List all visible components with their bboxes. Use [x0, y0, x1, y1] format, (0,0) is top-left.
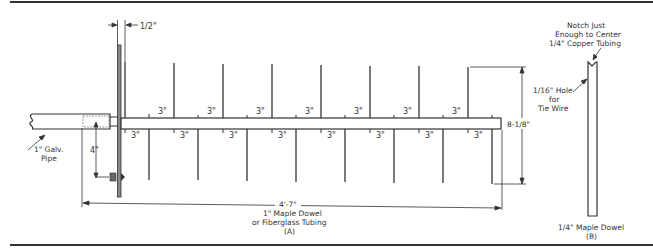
spacing-label: 3" [327, 131, 336, 140]
spacing-label: 3" [131, 131, 140, 140]
hole-leader [573, 79, 587, 92]
half-inch-dimension [108, 20, 138, 62]
spacing-label: 3" [180, 131, 189, 140]
galv-pipe-label: 1" Galv. [34, 145, 63, 154]
spacing-label: 3" [474, 131, 483, 140]
boom-label: (A) [284, 227, 295, 236]
spacing-label: 3" [229, 131, 238, 140]
spacing-label: 3" [403, 107, 412, 116]
spacing-label: 3" [376, 131, 385, 140]
spacing-label: 3" [256, 107, 265, 116]
four-inch-label: 4" [90, 146, 99, 155]
dowel-b-label: 1/4" Maple Dowel [558, 223, 624, 232]
upper-elements [125, 62, 468, 118]
galv-pipe [30, 114, 120, 129]
galv-pipe-label: Pipe [41, 154, 57, 163]
half-inch-label: 1/2" [140, 22, 157, 31]
spacing-label: 3" [354, 107, 363, 116]
element-height-label: 8-1/8" [507, 120, 530, 129]
notch-leader [593, 48, 601, 60]
notch-label: Enough to Center [555, 30, 622, 39]
bolt-icon [110, 173, 116, 181]
bolt-arrow-icon [121, 173, 125, 181]
notch-label: 1/4" Copper Tubing [549, 39, 621, 48]
hole-label: for [549, 95, 560, 104]
overall-length-label: 4'-7" [279, 200, 297, 209]
spacing-label: 3" [452, 107, 461, 116]
hole-label: 1/16" Hole [533, 86, 573, 95]
boom-label: or Fiberglass Tubing [252, 218, 327, 227]
spacing-label: 3" [207, 107, 216, 116]
spacing-label: 3" [425, 131, 434, 140]
overall-length-dimension [82, 128, 502, 210]
boom-dowel-a [121, 118, 501, 129]
dowel-b [588, 62, 597, 216]
dowel-b-label: (B) [586, 232, 597, 241]
spacing-label: 3" [158, 107, 167, 116]
diagram-canvas: 3" 3" 3" 3" 3" 3" 3" 3" 3" 3" 3" 3" 3" 3… [0, 0, 653, 248]
spacing-label: 3" [305, 107, 314, 116]
hole-label: Tie Wire [537, 104, 569, 113]
antenna-diagram: 3" 3" 3" 3" 3" 3" 3" 3" 3" 3" 3" 3" 3" 3… [0, 0, 653, 248]
notch-label: Notch Just [567, 21, 605, 30]
lower-elements [149, 129, 492, 184]
boom-label: 1" Maple Dowel [263, 209, 322, 218]
spacing-label: 3" [278, 131, 287, 140]
